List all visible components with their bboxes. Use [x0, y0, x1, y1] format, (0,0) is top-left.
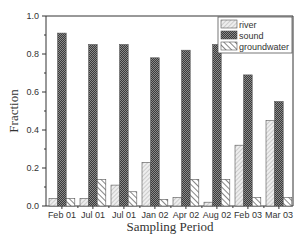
legend-label-groundwater: groundwater — [239, 42, 289, 52]
x-tick-label: Mar 03 — [265, 210, 293, 220]
bar-river — [80, 198, 89, 206]
bar-groundwater — [66, 198, 75, 206]
bar-groundwater — [97, 179, 106, 206]
bar-sound — [120, 45, 129, 207]
bar-sound — [58, 33, 67, 206]
y-axis-ticks: 0.00.20.40.60.81.0 — [26, 11, 46, 211]
y-tick-label: 0.6 — [26, 87, 39, 97]
bar-groundwater — [283, 197, 292, 206]
bar-sound — [182, 50, 191, 206]
bar-river — [235, 145, 244, 206]
legend-swatch-sound — [221, 31, 237, 39]
legend-swatch-river — [221, 20, 237, 28]
legend-swatch-groundwater — [221, 42, 237, 50]
x-axis-ticks: Feb 01Jul 01Jul 01Jan 02Apr 02Aug 02Feb … — [48, 206, 293, 220]
bar-groundwater — [159, 199, 168, 206]
bar-groundwater — [221, 179, 230, 206]
x-tick-label: Feb 03 — [234, 210, 262, 220]
legend: riversoundgroundwater — [218, 17, 292, 53]
legend-label-sound: sound — [239, 31, 264, 41]
bar-river — [49, 198, 58, 206]
x-tick-label: Feb 01 — [48, 210, 76, 220]
y-axis-title: Fraction — [6, 89, 21, 133]
legend-label-river: river — [239, 20, 257, 30]
bar-sound — [151, 58, 160, 206]
bar-river — [111, 185, 120, 206]
bars — [49, 33, 292, 206]
bar-groundwater — [128, 192, 137, 206]
bar-river — [142, 162, 151, 206]
x-tick-label: Jul 01 — [81, 210, 105, 220]
y-tick-label: 0.0 — [26, 201, 39, 211]
bar-sound — [275, 102, 284, 207]
y-tick-label: 1.0 — [26, 11, 39, 21]
y-tick-label: 0.2 — [26, 163, 39, 173]
bar-river — [173, 197, 182, 206]
bar-sound — [89, 45, 98, 207]
bar-sound — [244, 75, 253, 206]
y-tick-label: 0.8 — [26, 49, 39, 59]
bar-river — [204, 202, 213, 206]
x-axis-title: Sampling Period — [126, 219, 214, 234]
y-tick-label: 0.4 — [26, 125, 39, 135]
bar-groundwater — [190, 179, 199, 206]
bar-groundwater — [252, 197, 261, 206]
bar-sound — [213, 45, 222, 207]
bar-chart: 0.00.20.40.60.81.0 Feb 01Jul 01Jul 01Jan… — [0, 0, 306, 248]
bar-river — [266, 121, 275, 207]
